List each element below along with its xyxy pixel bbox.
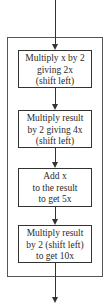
step-1-line-1: Multiply x by 2: [19, 53, 91, 65]
entry-connector: [55, 0, 56, 45]
connector-2-3: [55, 148, 56, 162]
step-2-line-2: by 2 giving 4x: [19, 125, 91, 137]
step-box-1: Multiply x by 2 giving 2x (shift left): [18, 50, 92, 88]
arrow-icon: [52, 297, 58, 303]
step-box-4: Multiply result by 2 (shift left) to get…: [18, 225, 92, 263]
step-2-line-3: (shift left): [19, 136, 91, 148]
step-3-line-2: to the result: [19, 183, 91, 195]
step-1-line-2: giving 2x: [19, 65, 91, 77]
connector-1-2: [55, 88, 56, 104]
exit-connector: [55, 263, 56, 298]
step-3-line-3: to get 5x: [19, 194, 91, 206]
step-1-line-3: (shift left): [19, 76, 91, 88]
connector-3-4: [55, 207, 56, 219]
step-4-line-2: by 2 (shift left): [19, 240, 91, 252]
step-3-line-1: Add x: [19, 171, 91, 183]
step-2-line-1: Multiply result: [19, 113, 91, 125]
step-4-line-3: to get 10x: [19, 251, 91, 263]
step-box-3: Add x to the result to get 5x: [18, 168, 92, 207]
step-4-line-1: Multiply result: [19, 228, 91, 240]
step-box-2: Multiply result by 2 giving 4x (shift le…: [18, 110, 92, 148]
